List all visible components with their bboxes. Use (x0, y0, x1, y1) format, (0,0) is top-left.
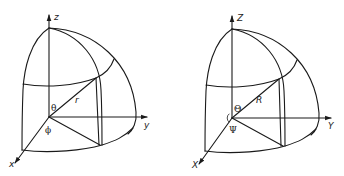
z-axis-label: z (53, 12, 59, 22)
y-axis-label: y (143, 120, 150, 130)
right-spherical-diagram: Z Y X Θ R Ψ (191, 13, 335, 170)
xy-projection-line (232, 118, 283, 146)
x-axis (199, 118, 232, 164)
diagram-canvas: z y x θ r ϕ Z Y X Θ R Ψ (0, 0, 344, 176)
meridian-through-point (49, 28, 102, 145)
radius-label: r (75, 95, 80, 105)
y-axis-label: Y (328, 121, 335, 131)
left-spherical-diagram: z y x θ r ϕ (8, 12, 150, 169)
xy-projection-line (49, 117, 100, 145)
vertical-projection-line (96, 78, 99, 145)
azimuth-label: Ψ (229, 125, 237, 135)
x-axis-label: x (8, 159, 15, 169)
x-axis-label: X (191, 160, 199, 170)
polar-angle-label: Θ (234, 104, 241, 114)
z-axis-label: Z (236, 13, 244, 23)
meridian-through-point (232, 29, 285, 146)
radius-label: R (256, 95, 262, 105)
vertical-projection-line (279, 79, 281, 146)
x-axis (15, 117, 49, 163)
azimuth-label: ϕ (45, 125, 51, 135)
xz-meridian-arc (205, 29, 232, 151)
angle-arc-marker (227, 114, 229, 122)
polar-angle-label: θ (51, 103, 56, 113)
